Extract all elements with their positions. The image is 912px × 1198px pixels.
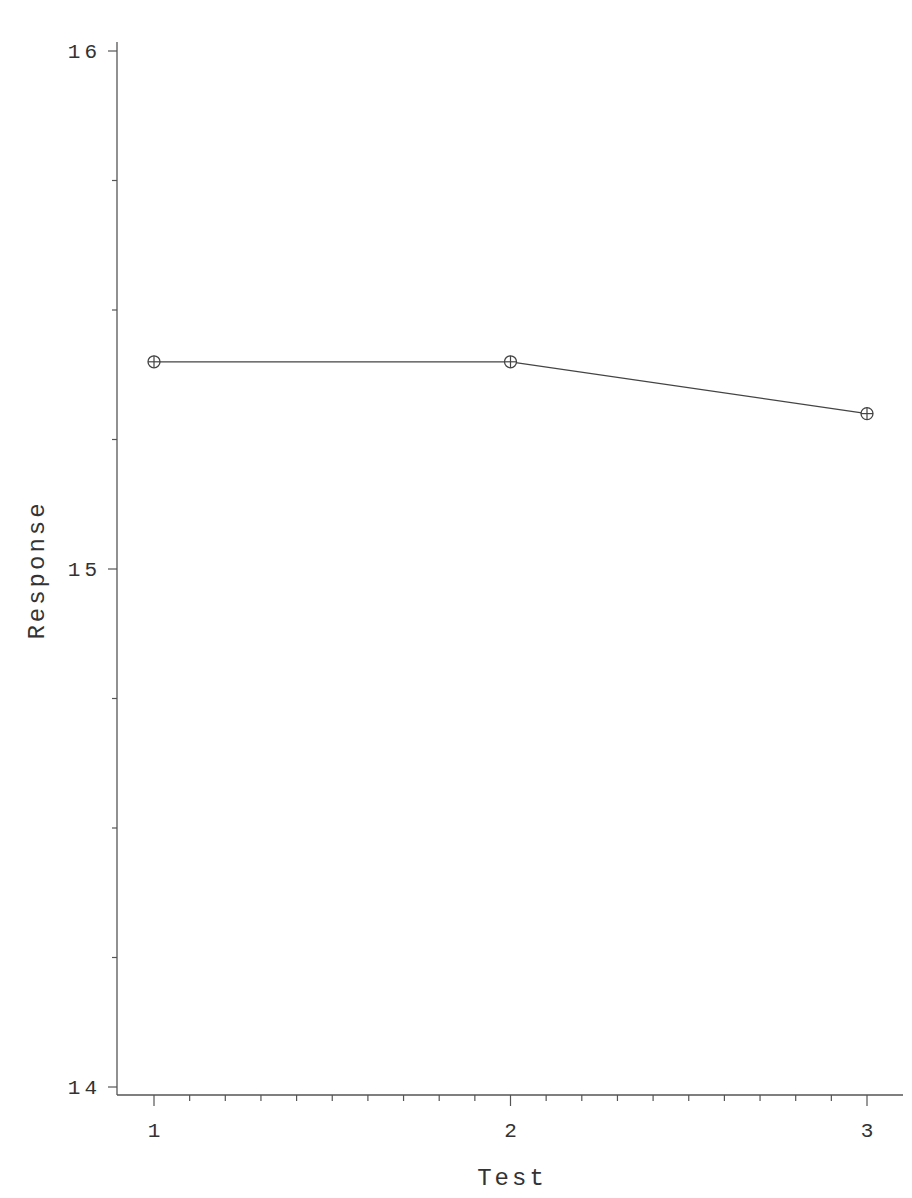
y-axis-label: Response xyxy=(24,500,51,639)
x-tick-label: 3 xyxy=(861,1120,874,1143)
y-tick-label: 16 xyxy=(68,41,101,64)
axes: 141516123 xyxy=(68,41,903,1143)
x-tick-label: 2 xyxy=(504,1120,517,1143)
data-point-marker xyxy=(505,356,517,368)
x-tick-label: 1 xyxy=(148,1120,161,1143)
y-tick-label: 15 xyxy=(68,559,101,582)
data-series xyxy=(148,356,873,420)
y-tick-label: 14 xyxy=(68,1077,101,1100)
data-point-marker xyxy=(861,408,873,420)
data-point-marker xyxy=(148,356,160,368)
series-line xyxy=(154,362,867,414)
line-chart: 141516123 Response Test xyxy=(0,0,912,1198)
x-axis-label: Test xyxy=(477,1165,547,1192)
